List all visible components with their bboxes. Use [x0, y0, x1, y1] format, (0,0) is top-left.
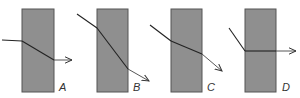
panel-b: B: [77, 9, 149, 93]
refraction-diagram: ABCD: [0, 0, 300, 98]
glass-block: [97, 9, 128, 92]
glass-block: [171, 9, 202, 92]
panel-label: C: [207, 81, 215, 93]
incident-ray: [150, 25, 171, 41]
panel-d: D: [229, 9, 296, 93]
incident-ray: [77, 14, 97, 28]
panel-label: D: [282, 81, 290, 93]
panel-label: B: [133, 81, 140, 93]
incident-ray: [229, 28, 245, 51]
emergent-ray-arrow-icon: [202, 54, 222, 71]
panel-label: A: [58, 81, 66, 93]
emergent-ray-arrow-icon: [128, 69, 149, 81]
incident-ray: [2, 40, 22, 41]
panel-c: C: [150, 9, 222, 93]
panel-a: A: [2, 9, 72, 93]
